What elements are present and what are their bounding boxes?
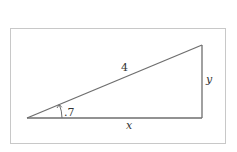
diagram-frame xyxy=(11,29,226,144)
angle-label: .7 xyxy=(64,106,75,119)
hypotenuse-label: 4 xyxy=(121,61,128,74)
hypotenuse-line xyxy=(27,45,202,118)
vertical-side-label: y xyxy=(205,73,213,86)
triangle-diagram: 4 y x .7 xyxy=(0,0,237,152)
horizontal-side-label: x xyxy=(126,119,133,132)
